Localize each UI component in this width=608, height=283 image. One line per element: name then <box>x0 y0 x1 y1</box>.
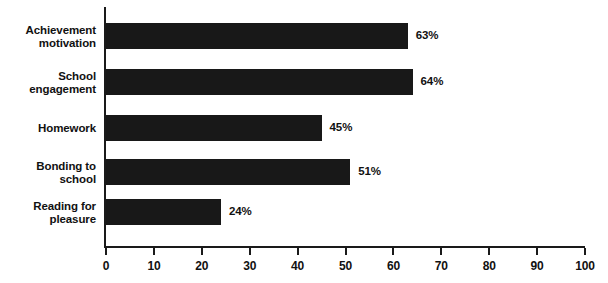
x-axis-tick <box>488 248 490 255</box>
bar-value-label: 24% <box>229 205 252 217</box>
category-label: Reading forpleasure <box>0 200 96 225</box>
category-label-line: motivation <box>0 37 96 50</box>
x-axis-tick-label: 100 <box>575 259 594 273</box>
x-axis-tick <box>249 248 251 255</box>
category-label: Bonding toschool <box>0 160 96 185</box>
x-axis-tick <box>201 248 203 255</box>
category-label: Achievementmotivation <box>0 24 96 49</box>
category-label: Homework <box>0 122 96 135</box>
x-axis-tick <box>297 248 299 255</box>
x-axis-tick-label: 70 <box>435 259 448 273</box>
x-axis-tick-label: 10 <box>147 259 160 273</box>
category-label: Schoolengagement <box>0 70 96 95</box>
x-axis-tick-label: 30 <box>243 259 256 273</box>
x-axis-tick <box>345 248 347 255</box>
bar-value-label: 64% <box>421 75 444 87</box>
x-axis-tick-label: 40 <box>291 259 304 273</box>
x-axis-tick-label: 90 <box>531 259 544 273</box>
x-axis-tick <box>440 248 442 255</box>
bar <box>106 199 221 225</box>
x-axis-tick <box>536 248 538 255</box>
bar-value-label: 45% <box>330 121 353 133</box>
x-axis-tick-label: 60 <box>387 259 400 273</box>
x-axis-tick <box>153 248 155 255</box>
category-label-line: School <box>0 70 96 83</box>
category-label-line: pleasure <box>0 213 96 226</box>
category-label-line: Bonding to <box>0 160 96 173</box>
x-axis-tick <box>392 248 394 255</box>
bar-row: Homework45% <box>0 115 608 141</box>
bar-row: Schoolengagement64% <box>0 69 608 95</box>
bar <box>106 115 322 141</box>
category-label-line: Reading for <box>0 200 96 213</box>
x-axis-tick <box>105 248 107 255</box>
bar <box>106 23 408 49</box>
x-axis-tick-label: 20 <box>195 259 208 273</box>
cropped-title-strip <box>0 0 608 7</box>
bar <box>106 69 413 95</box>
bar-row: Bonding toschool51% <box>0 159 608 185</box>
category-label-line: engagement <box>0 83 96 96</box>
category-label-line: Achievement <box>0 24 96 37</box>
bar <box>106 159 350 185</box>
category-label-line: school <box>0 173 96 186</box>
x-axis-tick-label: 50 <box>339 259 352 273</box>
bar-value-label: 51% <box>358 165 381 177</box>
x-axis-tick <box>584 248 586 255</box>
x-axis-tick-label: 80 <box>483 259 496 273</box>
bar-chart: Achievementmotivation63%Schoolengagement… <box>0 0 608 283</box>
bar-value-label: 63% <box>416 29 439 41</box>
bar-row: Reading forpleasure24% <box>0 199 608 225</box>
bar-row: Achievementmotivation63% <box>0 23 608 49</box>
x-axis-tick-label: 0 <box>103 259 109 273</box>
category-label-line: Homework <box>0 122 96 135</box>
